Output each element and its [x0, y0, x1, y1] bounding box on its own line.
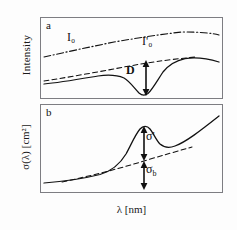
panel-a-y-axis-label: Intensity — [19, 16, 33, 94]
label-sigma-b: σb — [146, 162, 156, 178]
label-depth-d: D — [126, 63, 135, 78]
sigma-b-glyph: σb — [146, 162, 156, 176]
label-i0-prime: I'₀ — [142, 34, 152, 49]
panel-b-frame — [40, 104, 223, 193]
label-i0: I₀ — [67, 30, 75, 45]
panel-b-y-axis-label: σ(λ) [cm²] — [19, 108, 33, 186]
label-sigma-prime: σ' — [146, 129, 155, 144]
panel-b-letter: b — [46, 106, 52, 118]
figure-container: a Intensity I₀ I'₀ D b σ(λ) [cm²] — [0, 0, 237, 230]
x-axis-label: λ [nm] — [40, 203, 223, 215]
panel-a-letter: a — [46, 19, 51, 31]
